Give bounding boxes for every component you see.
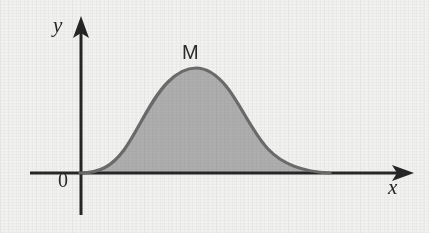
figure-canvas: y x 0 M [0,0,429,233]
graph-plot [0,0,429,233]
x-axis-label: x [388,177,397,198]
y-axis-label: y [53,15,62,36]
origin-label: 0 [58,170,68,190]
peak-point-label: M [182,42,199,62]
